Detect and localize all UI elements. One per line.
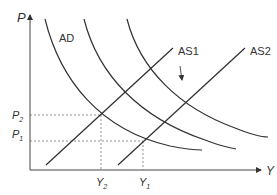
y-axis-label: P xyxy=(17,10,26,25)
y1-label: Y1 xyxy=(139,176,150,190)
ad-as-diagram: P Y AD AS1 AS2 P2 P1 Y2 Y1 xyxy=(0,0,277,195)
ad-curve-2 xyxy=(84,19,236,149)
as2-label: AS2 xyxy=(250,45,271,57)
as1-label: AS1 xyxy=(178,45,199,57)
ad-label: AD xyxy=(59,32,74,44)
p1-label: P1 xyxy=(12,128,23,142)
guide-lines xyxy=(30,115,143,170)
p2-label: P2 xyxy=(12,109,23,123)
x-axis-label: Y xyxy=(266,164,275,178)
shift-arrow-icon xyxy=(180,66,182,80)
y2-label: Y2 xyxy=(96,176,107,190)
ad-curve-3 xyxy=(127,19,268,137)
as1-curve xyxy=(46,48,173,165)
